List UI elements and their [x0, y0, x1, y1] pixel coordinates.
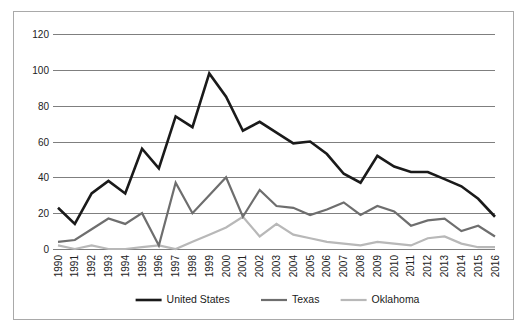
x-axis-tick-label: 1998 [187, 255, 198, 278]
x-axis-tick-label: 2009 [372, 255, 383, 278]
x-axis-tick-label: 2014 [456, 255, 467, 278]
y-axis-tick-label: 80 [38, 101, 50, 112]
series-line-oklahoma [58, 217, 495, 249]
x-axis-tick-label: 2012 [422, 255, 433, 278]
y-axis-tick-label: 40 [38, 172, 50, 183]
legend-label-oklahoma: Oklahoma [372, 293, 420, 305]
gridlines [53, 35, 495, 250]
chart-figure: 020406080100120 199019911992199319941995… [13, 11, 514, 320]
y-axis-tick-label: 0 [43, 244, 49, 255]
x-axis-tick-label: 2001 [237, 255, 248, 278]
series-line-texas [58, 177, 495, 245]
y-axis-tick-label: 20 [38, 208, 50, 219]
x-axis-tick-label: 1990 [53, 255, 64, 278]
x-axis-tick-label: 2008 [355, 255, 366, 278]
x-axis-tick-label: 2002 [254, 255, 265, 278]
y-axis-tick-label: 100 [32, 65, 49, 76]
y-axis-tick-label: 120 [32, 29, 49, 40]
x-axis-tick-label: 1995 [137, 255, 148, 278]
x-axis-tick-label: 2010 [389, 255, 400, 278]
line-chart-plot: 020406080100120 199019911992199319941995… [14, 12, 515, 321]
y-axis-tick-label: 60 [38, 137, 50, 148]
x-axis-tick-label: 1992 [86, 255, 97, 278]
legend-label-texas: Texas [292, 293, 319, 305]
x-axis-tick-label: 2004 [288, 255, 299, 278]
x-axis-tick-label: 2003 [271, 255, 282, 278]
series-line-united-states [58, 73, 495, 224]
x-axis-tick-label: 2013 [439, 255, 450, 278]
y-axis-tick-labels: 020406080100120 [32, 29, 49, 255]
legend-label-united-states: United States [167, 293, 230, 305]
x-axis-tick-label: 1997 [170, 255, 181, 278]
x-axis-tick-label: 2007 [338, 255, 349, 278]
chart-legend: United StatesTexasOklahoma [136, 293, 420, 305]
x-axis-tick-label: 2015 [473, 255, 484, 278]
x-axis-tick-label: 2005 [305, 255, 316, 278]
x-axis-tick-label: 1999 [204, 255, 215, 278]
x-axis-tick-label: 1996 [153, 255, 164, 278]
x-axis-tick-label: 2011 [405, 255, 416, 277]
x-axis-tick-label: 2016 [490, 255, 501, 278]
x-axis-tick-label: 1993 [103, 255, 114, 278]
data-series [58, 73, 495, 249]
x-axis-tick-label: 1991 [69, 255, 80, 278]
x-axis-tick-labels: 1990199119921993199419951996199719981999… [53, 255, 501, 278]
x-axis-tick-label: 2000 [221, 255, 232, 278]
x-axis-tick-label: 2006 [321, 255, 332, 278]
x-axis-tick-label: 1994 [120, 255, 131, 278]
